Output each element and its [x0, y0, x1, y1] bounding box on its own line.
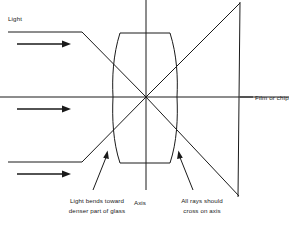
optics-diagram: Light Film or chip Axis Light bends towa… — [0, 0, 289, 228]
label-light: Light — [8, 15, 22, 22]
diverging-ray-top-to-film — [146, 97, 239, 196]
label-film-or-chip: Film or chip — [255, 94, 289, 101]
direction-arrow-bottom — [17, 171, 71, 178]
film-plane-line — [238, 2, 240, 197]
refracted-ray-top-to-focus — [82, 32, 146, 97]
direction-arrow-middle — [17, 106, 71, 113]
ray-diagram-canvas: Light Film or chip Axis Light bends towa… — [0, 0, 289, 228]
caption-left-line2: denser part of glass — [69, 207, 125, 214]
caption-left-line1: Light bends toward — [70, 197, 125, 204]
callout-pointer-right — [177, 151, 193, 191]
caption-right-line1: All rays should — [181, 197, 223, 204]
callout-pointer-left — [93, 151, 109, 191]
caption-right-line2: cross on axis — [183, 207, 220, 214]
label-axis: Axis — [134, 199, 146, 206]
refracted-ray-bottom-to-focus — [82, 97, 146, 162]
direction-arrow-top — [17, 41, 71, 48]
diverging-ray-bottom-to-film — [146, 3, 240, 97]
